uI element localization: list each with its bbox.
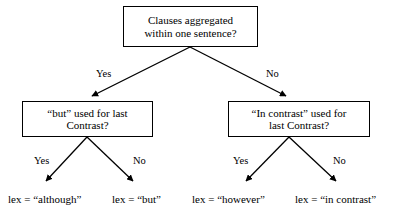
node-root: Clauses aggregated within one sentence? <box>123 6 258 47</box>
edge-label-root-yes: Yes <box>96 69 111 80</box>
edge-left-no <box>87 137 133 181</box>
leaf-in-contrast: lex = “in contrast” <box>295 194 376 205</box>
node-but-contrast-line1: “but” used for last <box>47 107 127 119</box>
node-in-contrast-line1: “In contrast” used for <box>252 107 347 119</box>
edge-right-yes <box>246 137 289 181</box>
node-but-contrast-line2: Contrast? <box>66 119 108 131</box>
leaf-although: lex = “although” <box>8 194 81 205</box>
node-in-contrast-line2: last Contrast? <box>269 119 329 131</box>
edge-label-left-yes: Yes <box>34 156 49 167</box>
edge-label-right-yes: Yes <box>233 156 248 167</box>
edge-label-root-no: No <box>266 69 279 80</box>
decision-tree-figure: Clauses aggregated within one sentence? … <box>0 0 403 215</box>
node-but-contrast: “but” used for last Contrast? <box>22 101 153 137</box>
leaf-but: lex = “but” <box>112 194 161 205</box>
leaf-however: lex = “however” <box>192 194 265 205</box>
edge-label-right-no: No <box>333 156 346 167</box>
edge-right-no <box>289 137 336 181</box>
edge-left-yes <box>46 137 87 181</box>
node-root-line2: within one sentence? <box>144 27 236 39</box>
node-in-contrast-contrast: “In contrast” used for last Contrast? <box>228 101 370 137</box>
node-root-line1: Clauses aggregated <box>148 14 233 26</box>
edge-label-left-no: No <box>133 156 146 167</box>
